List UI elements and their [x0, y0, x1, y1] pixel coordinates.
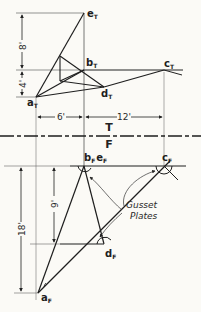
front-view: 9' 18' Gusset Plates bFeF cF dF aF — [4, 152, 186, 304]
member-inner-b — [60, 70, 84, 81]
member-ad-top — [36, 87, 104, 97]
label-bT: bT — [86, 57, 98, 69]
member-dc-top — [104, 70, 164, 87]
label-aF: aF — [41, 292, 52, 304]
leader-to-b — [90, 177, 122, 210]
label-cT: cT — [164, 58, 175, 70]
member-bd-front — [84, 166, 104, 244]
label-bFeF: bFeF — [84, 152, 107, 164]
diagram-canvas: 8' 4' eT bT cT dT aT 6' 12' — [0, 0, 201, 312]
label-dT: dT — [101, 88, 113, 100]
label-aT: aT — [27, 97, 39, 109]
label-cF: cF — [162, 152, 172, 164]
dim-9ft: 9' — [50, 200, 60, 208]
label-eT: eT — [87, 8, 99, 20]
member-c-extension — [164, 70, 182, 75]
note-plates: Plates — [130, 211, 158, 221]
dim-18ft: 18' — [17, 222, 27, 236]
dim-12ft: 12' — [117, 112, 131, 122]
label-dF: dF — [105, 248, 116, 260]
dim-4ft: 4' — [18, 80, 28, 88]
label-F: F — [105, 138, 113, 151]
label-T: T — [105, 121, 113, 134]
member-ac-front — [38, 161, 170, 293]
member-ae-top — [36, 13, 84, 97]
leader-to-d — [100, 213, 122, 237]
dim-8ft: 8' — [18, 42, 28, 50]
dim-6ft: 6' — [57, 112, 65, 122]
note-gusset: Gusset — [126, 200, 158, 210]
member-ab-front — [38, 166, 84, 293]
folding-line-group: T F — [0, 121, 201, 151]
member-c-stub — [164, 166, 178, 180]
